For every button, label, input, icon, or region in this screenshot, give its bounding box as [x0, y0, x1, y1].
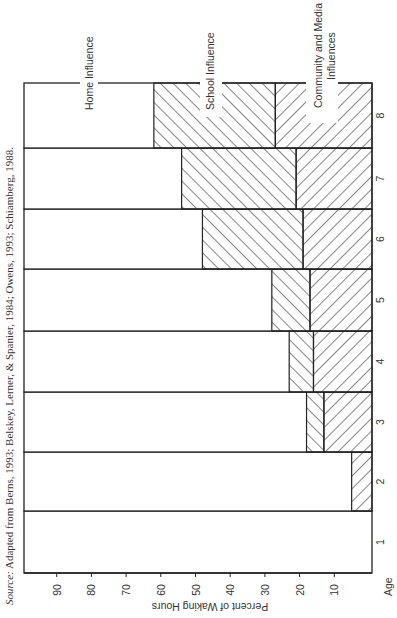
age-label: 5	[374, 297, 386, 303]
axis-title-percent: Percent of Waking Hours	[152, 601, 268, 613]
tick-label: 90	[51, 584, 63, 596]
segment-community-media	[303, 209, 372, 269]
segment-community-media	[296, 148, 372, 209]
tick-label: 40	[224, 584, 236, 596]
segment-home	[24, 511, 372, 573]
segment-home	[24, 452, 372, 511]
label-school-influence: School Influence	[204, 32, 216, 110]
label-community-media-line1: Community and Media	[312, 3, 324, 108]
tick-label: 80	[85, 584, 97, 596]
bars-group	[24, 83, 372, 573]
bar-age-6	[24, 209, 372, 269]
age-label: 8	[374, 112, 386, 118]
age-label: 4	[374, 358, 386, 364]
label-community-media-line2: Influences	[325, 32, 337, 80]
segment-community-media	[310, 269, 372, 331]
age-label: 3	[374, 419, 386, 425]
tick-label: 30	[259, 584, 271, 596]
segment-school	[307, 392, 324, 452]
tick-label: 60	[155, 584, 167, 596]
chart-figure: 102030405060708090 12345678 Home Influen…	[0, 0, 397, 618]
source-note: Source: Adapted from Berns, 1993; Belske…	[3, 147, 15, 605]
segment-school	[202, 209, 303, 269]
percent-axis: 102030405060708090	[24, 573, 372, 596]
tick-label: 20	[294, 584, 306, 596]
bar-age-7	[24, 148, 372, 209]
tick-label: 10	[328, 584, 340, 596]
segment-community-media	[313, 331, 372, 392]
age-label: 7	[374, 175, 386, 181]
bar-age-5	[24, 269, 372, 331]
source-text: Adapted from Berns, 1993; Belskey, Lerne…	[3, 147, 15, 571]
tick-label: 50	[190, 584, 202, 596]
tick-label: 70	[120, 584, 132, 596]
bar-age-2	[24, 452, 372, 511]
segment-school	[289, 331, 313, 392]
stacked-bar-chart: 102030405060708090 12345678 Home Influen…	[0, 0, 397, 618]
bar-age-4	[24, 331, 372, 392]
segment-community-media	[324, 392, 372, 452]
axis-title-age: Age	[382, 577, 394, 596]
age-label: 6	[374, 236, 386, 242]
age-label: 1	[374, 539, 386, 545]
label-home-influence: Home Influence	[83, 36, 95, 110]
bar-age-1	[24, 511, 372, 573]
segment-school	[272, 269, 310, 331]
source-label: Source:	[3, 571, 15, 605]
bar-age-3	[24, 392, 372, 452]
age-axis-labels: 12345678	[374, 112, 386, 545]
age-label: 2	[374, 478, 386, 484]
segment-community-media	[352, 452, 372, 511]
segment-school	[182, 148, 297, 209]
